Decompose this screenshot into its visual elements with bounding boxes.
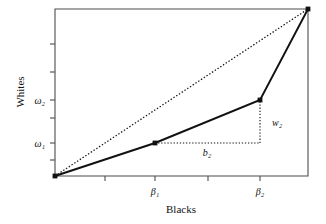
lorenz-curve-figure: ω₁ ω₂ β₁ β₂ Blacks Whites b₂ w₂ (0, 0, 326, 224)
data-point-beta2 (258, 98, 263, 103)
y-axis-title: Whites (14, 76, 26, 107)
w2-label: w₂ (272, 117, 283, 128)
y-tick-label-omega1: ω₁ (34, 138, 45, 149)
figure-background (0, 0, 326, 224)
b2-label: b₂ (203, 147, 212, 158)
data-point-origin (53, 174, 58, 179)
x-axis-title: Blacks (166, 203, 196, 215)
data-point-top-right (306, 7, 311, 12)
data-point-beta1 (153, 141, 158, 146)
y-tick-label-omega2: ω₂ (34, 95, 45, 106)
x-tick-label-beta1: β₁ (150, 186, 159, 197)
x-tick-label-beta2: β₂ (255, 186, 265, 197)
